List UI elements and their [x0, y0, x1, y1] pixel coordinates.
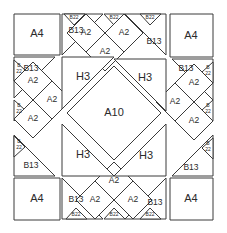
corner-square-top-right — [170, 14, 213, 57]
quilt-block-diagram: A4A4A4A4B13B13B13B13B13B13B13B13B22B22B2… — [0, 0, 227, 233]
corner-square-bottom-left — [14, 178, 60, 220]
pieces-layer — [14, 14, 213, 220]
corner-square-bottom-right — [170, 178, 213, 220]
corner-square-top-left — [14, 14, 60, 55]
